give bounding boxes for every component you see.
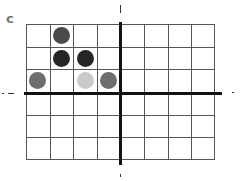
x-axis xyxy=(24,92,222,95)
x-axis-right-dot xyxy=(232,92,234,93)
piece-black xyxy=(53,50,70,67)
piece-black xyxy=(77,50,94,67)
piece-dark-gray xyxy=(53,27,70,44)
y-axis-top-dash xyxy=(120,5,121,13)
piece-light-gray xyxy=(77,72,94,89)
panel-label: c xyxy=(6,11,14,26)
x-axis-left-dot xyxy=(2,93,4,94)
y-axis-bottom-dot xyxy=(120,174,121,177)
x-axis-left-dash xyxy=(8,93,14,94)
